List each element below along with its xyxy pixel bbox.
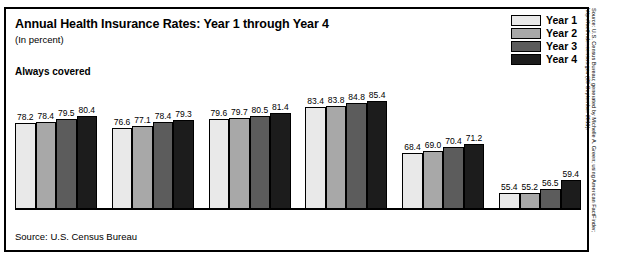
section-heading: Always covered [15,66,91,77]
x-axis-baseline [15,208,581,210]
bar-slot: 71.2 [464,87,485,209]
bar-value-label: 80.5 [252,105,269,115]
bar-value-label: 85.4 [369,90,386,100]
bar-value-label: 55.4 [501,182,518,192]
bar[interactable] [402,153,423,209]
bar-value-label: 55.2 [521,182,538,192]
bar-value-label: 69.0 [425,140,442,150]
legend-swatch [511,54,541,65]
bar-group: 76.677.178.479.3 [112,87,194,209]
bar-group-bars: 78.278.479.580.4 [15,87,97,209]
bar-value-label: 78.4 [37,111,54,121]
bar-value-label: 59.4 [562,169,579,179]
legend-item: Year 4 [511,53,577,65]
bar-slot: 70.4 [443,87,464,209]
bar[interactable] [443,147,464,209]
bar-value-label: 79.7 [231,107,248,117]
bar-slot: 55.2 [520,87,541,209]
bar-group-bars: 76.677.178.479.3 [112,87,194,209]
side-credit-text: Source: U.S. Census Bureau; generated by… [585,8,597,256]
bar-value-label: 80.4 [78,105,95,115]
bar[interactable] [499,193,520,209]
bar[interactable] [132,126,153,209]
bar-group: 83.483.884.885.4 [305,87,387,209]
bar[interactable] [561,180,582,209]
bar-slot: 79.5 [56,87,77,209]
bar-slot: 83.4 [305,87,326,209]
bar-group-bars: 68.469.070.471.2 [402,87,484,209]
bar[interactable] [112,128,133,209]
bar-value-label: 78.2 [17,112,34,122]
bar-slot: 83.8 [326,87,347,209]
bar-value-label: 79.5 [58,108,75,118]
bar-value-label: 71.2 [466,133,483,143]
bar-slot: 55.4 [499,87,520,209]
bar[interactable] [77,116,98,209]
bar-value-label: 83.4 [307,96,324,106]
bar-group: 55.455.256.559.4 [499,87,581,209]
legend-label: Year 2 [546,28,577,39]
bar-slot: 78.2 [15,87,36,209]
bar-slot: 76.6 [112,87,133,209]
bar[interactable] [464,144,485,209]
bar-value-label: 68.4 [404,142,421,152]
bar-slot: 68.4 [402,87,423,209]
bar-slot: 80.5 [250,87,271,209]
bar-value-label: 78.4 [155,111,172,121]
bar-value-label: 70.4 [445,136,462,146]
legend-swatch [511,15,541,26]
bar-slot: 69.0 [423,87,444,209]
bar[interactable] [540,189,561,209]
chart-subtitle: (In percent) [15,34,64,45]
bar-value-label: 76.6 [114,117,131,127]
bar-value-label: 83.8 [328,95,345,105]
bar[interactable] [15,123,36,209]
bar-group-bars: 83.483.884.885.4 [305,87,387,209]
bar[interactable] [367,101,388,209]
bar[interactable] [520,193,541,209]
bar[interactable] [153,122,174,209]
side-credit-line1: Source: U.S. Census Bureau; generated by… [591,8,597,232]
bar[interactable] [209,119,230,209]
bar[interactable] [56,119,77,209]
bar[interactable] [423,151,444,209]
bar-slot: 79.3 [173,87,194,209]
bar-slot: 78.4 [36,87,57,209]
bar[interactable] [346,103,367,209]
bar-slot: 80.4 [77,87,98,209]
chart-title: Annual Health Insurance Rates: Year 1 th… [15,17,329,31]
chart-frame: Annual Health Insurance Rates: Year 1 th… [4,7,589,252]
bar-slot: 77.1 [132,87,153,209]
bar-group-bars: 55.455.256.559.4 [499,87,581,209]
bar[interactable] [173,120,194,209]
legend-item: Year 1 [511,14,577,26]
bar-value-label: 77.1 [134,115,151,125]
bar-value-label: 84.8 [348,92,365,102]
legend-item: Year 3 [511,40,577,52]
bar[interactable] [305,107,326,209]
chart-legend: Year 1Year 2Year 3Year 4 [511,14,577,65]
bar-value-label: 56.5 [542,178,559,188]
bar-group-bars: 79.679.780.581.4 [209,87,291,209]
legend-item: Year 2 [511,27,577,39]
bar-group: 78.278.479.580.4 [15,87,97,209]
bar[interactable] [326,106,347,209]
bar[interactable] [270,113,291,209]
bar[interactable] [229,118,250,209]
bar-slot: 59.4 [561,87,582,209]
bar-slot: 79.6 [209,87,230,209]
legend-swatch [511,28,541,39]
source-note: Source: U.S. Census Bureau [15,231,137,242]
legend-label: Year 4 [546,54,577,65]
bar-slot: 79.7 [229,87,250,209]
bar[interactable] [36,122,57,209]
bar-slot: 56.5 [540,87,561,209]
bar[interactable] [250,116,271,209]
legend-swatch [511,41,541,52]
legend-label: Year 1 [546,15,577,26]
bar-group: 79.679.780.581.4 [209,87,291,209]
bar-slot: 78.4 [153,87,174,209]
legend-label: Year 3 [546,41,577,52]
bar-value-label: 81.4 [272,102,289,112]
bar-group: 68.469.070.471.2 [402,87,484,209]
